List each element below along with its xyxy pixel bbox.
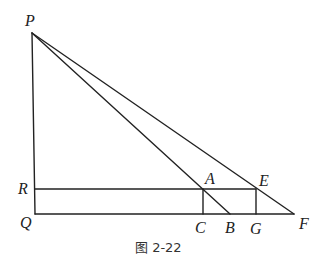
figure-caption: 图 2-22: [135, 240, 182, 255]
label-A: A: [204, 170, 215, 187]
segment-PQ: [32, 33, 35, 214]
geometry-diagram: P R Q A E C B G F 图 2-22: [0, 0, 325, 270]
label-B: B: [225, 219, 235, 236]
segment-PF: [32, 33, 294, 214]
label-R: R: [17, 180, 28, 197]
label-P: P: [24, 12, 35, 29]
label-E: E: [258, 172, 269, 189]
label-F: F: [298, 215, 309, 232]
segment-PB: [32, 33, 230, 214]
label-C: C: [195, 219, 206, 236]
label-G: G: [250, 220, 262, 237]
label-Q: Q: [20, 214, 32, 231]
